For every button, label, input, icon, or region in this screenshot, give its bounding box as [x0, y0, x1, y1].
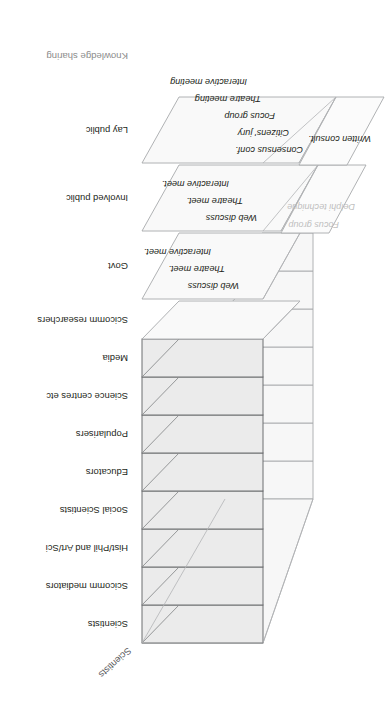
row-label-social-scientists: Social Scientists [60, 505, 128, 515]
method-lay-focus-group: Focus group [224, 111, 275, 121]
method-side-written-consult: Written consult. [308, 133, 371, 143]
method-involved-interactive-meet: Interactive meet. [162, 179, 229, 189]
method-side-delphi-technique: Delphi technique [287, 201, 355, 211]
row-label-educators: Educators [86, 467, 128, 477]
row-label-science-centres: Science centres etc [46, 391, 128, 401]
row-label-involved-public: Involved public [66, 193, 128, 203]
row-label-lay-public: Lay public [86, 125, 128, 135]
isometric-slab-geometry [0, 0, 391, 711]
row-label-hist-phil-art-sci: Hist/Phil and Art/Sci [46, 543, 128, 553]
row-label-scicomm-researchers: Scicomm researchers [37, 315, 128, 325]
row-label-popularisers: Popularisers [76, 429, 128, 439]
row-label-scientists: Scientists [88, 619, 128, 629]
method-side-focus-group: Focus group [288, 219, 339, 229]
method-lay-citizens-jury: Citizens' jury [238, 128, 289, 138]
method-lay-theatre-meeting-2: Theatre meeting [195, 94, 261, 104]
row-label-media: Media [102, 353, 128, 363]
method-involved-theatre-meet: Theatre meet. [186, 196, 243, 206]
method-govt-theatre-meet: Theatre meet. [168, 264, 225, 274]
figure-canvas: Scientists Scientists Scicomm mediators … [0, 0, 391, 711]
diagram-stage: Scientists Scientists Scicomm mediators … [0, 0, 391, 711]
row-label-govt: Govt [108, 261, 128, 271]
method-lay-interactive-meeting: Interactive meeting [170, 77, 247, 87]
method-govt-web-discuss: Web discuss [188, 281, 239, 291]
method-involved-web-discuss: Web discuss [206, 213, 257, 223]
method-govt-interactive-meet: Interactive meet. [144, 247, 211, 257]
shaded-slab-faces [142, 339, 263, 643]
axis-label-knowledge-sharing: Knowledge sharing [46, 50, 128, 61]
row-label-scicomm-mediators: Scicomm mediators [46, 581, 128, 591]
method-lay-consensus-conf: Consensus conf. [235, 145, 303, 155]
